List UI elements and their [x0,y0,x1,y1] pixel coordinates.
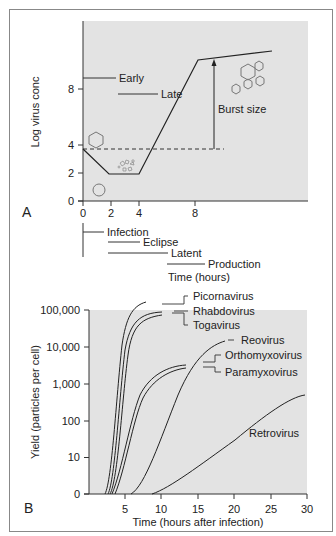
panel-a-ytick: 0 [68,195,74,207]
panel-b-ytick: 100 [62,415,80,427]
label-picornavirus: Picornavirus [193,290,254,302]
panel-b-xtick: 30 [301,503,313,515]
figure: 0 2 4 8 0 2 4 8 Log virus conc A Burst s… [0,0,336,536]
panel-b-xtick: 15 [192,503,204,515]
panel-b-xlabel: Time (hours after infection) [132,516,263,528]
panel-b-ytick: 100,000 [40,304,80,316]
panel-b-xtick: 25 [265,503,277,515]
label-rhabdovirus: Rhabdovirus [193,305,255,317]
label-orthomyxovirus: Orthomyxovirus [225,349,303,361]
label-togavirus: Togavirus [193,319,241,331]
late-label: Late [161,88,182,100]
panel-b-xtick: 20 [228,503,240,515]
panel-b-letter: B [24,500,33,516]
panel-b-xtick: 5 [122,503,128,515]
panel-b-ytick: 1,000 [52,378,80,390]
panel-b-ytick: 0 [74,488,80,500]
panel-b-xtick: 10 [155,503,167,515]
early-label: Early [119,72,145,84]
panel-a-xtick: 2 [108,207,114,219]
panel-b-ytick: 10,000 [46,341,80,353]
panel-b-ylabel: Yield (particles per cell) [29,345,41,459]
label-paramyxovirus: Paramyxovirus [225,366,298,378]
panel-b-ytick: 10 [68,451,80,463]
phase-latent-label: Latent [171,247,202,259]
panel-a-ytick: 4 [68,139,74,151]
label-retrovirus: Retrovirus [249,427,300,439]
burst-size-label: Burst size [218,103,266,115]
panel-a-letter: A [22,204,32,220]
panel-a-xlabel: Time (hours) [168,271,230,283]
panel-a-ytick: 2 [68,167,74,179]
phase-production-label: Production [208,258,261,270]
panel-a-ytick: 8 [68,83,74,95]
panel-a-xtick: 4 [136,207,142,219]
panel-a-xtick: 8 [192,207,198,219]
panel-a-xtick: 0 [80,207,86,219]
label-reovirus: Reovirus [241,334,285,346]
panel-a-ylabel: Log virus conc [29,76,41,147]
